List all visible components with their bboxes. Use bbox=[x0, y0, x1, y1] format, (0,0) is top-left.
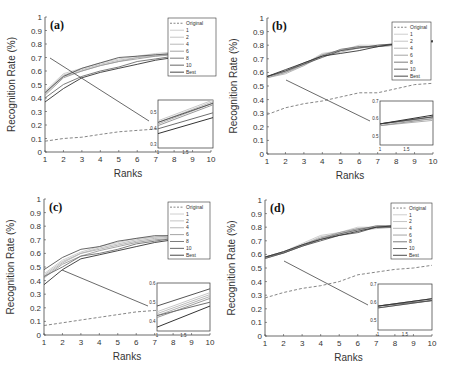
y-tick-label: 0.9 bbox=[251, 210, 263, 219]
zoom-connector-line bbox=[50, 58, 149, 121]
x-tick-label: 9 bbox=[412, 157, 417, 166]
zoom-inset: 0.30.40.511.5 bbox=[150, 100, 213, 155]
legend-entry: Original bbox=[410, 24, 427, 30]
y-tick-label: 1 bbox=[38, 13, 43, 22]
inset-y-tick: 0.3 bbox=[150, 142, 157, 147]
legend-entry: 1 bbox=[410, 31, 413, 37]
x-tick-label: 3 bbox=[302, 157, 307, 166]
y-axis-label: Recognition Rate (%) bbox=[5, 219, 16, 314]
y-axis-label: Recognition Rate (%) bbox=[226, 220, 237, 315]
x-tick-label: 4 bbox=[98, 155, 103, 164]
y-tick-label: 0.9 bbox=[253, 28, 265, 37]
x-tick-label: 6 bbox=[357, 157, 362, 166]
legend-entry: 6 bbox=[186, 231, 189, 237]
x-tick-label: 5 bbox=[337, 339, 342, 348]
y-tick-label: 1 bbox=[37, 195, 42, 204]
y-tick-label: 0.7 bbox=[253, 55, 265, 64]
legend-entry: 1 bbox=[409, 212, 412, 218]
panel-label: (c) bbox=[49, 200, 62, 214]
legend-entry: 6 bbox=[186, 48, 189, 54]
y-tick-label: 0.5 bbox=[31, 81, 43, 90]
y-tick-label: 0.7 bbox=[251, 237, 263, 246]
x-tick-label: 5 bbox=[116, 338, 121, 347]
inset-x-tick: 1 bbox=[157, 150, 160, 155]
inset-y-tick: 0.6 bbox=[149, 281, 156, 286]
x-tick-label: 4 bbox=[318, 339, 323, 348]
x-tick-label: 7 bbox=[375, 157, 380, 166]
zoom-connector-line bbox=[286, 80, 370, 121]
x-tick-label: 6 bbox=[134, 338, 139, 347]
x-tick-label: 1 bbox=[43, 155, 48, 164]
inset-y-tick: 0.5 bbox=[370, 318, 377, 323]
legend-entry: Best bbox=[410, 73, 421, 79]
y-tick-label: 0.7 bbox=[30, 236, 42, 245]
y-tick-label: 0.8 bbox=[253, 41, 265, 50]
zoom-connector-line bbox=[62, 270, 148, 306]
legend-entry: 8 bbox=[186, 238, 189, 244]
y-tick-label: 0.2 bbox=[30, 304, 42, 313]
inset-y-tick: 0.6 bbox=[372, 116, 379, 121]
y-tick-label: 0.8 bbox=[31, 40, 43, 49]
zoom-connector-line bbox=[284, 261, 368, 305]
legend-entry: 10 bbox=[186, 245, 192, 251]
x-tick-label: 7 bbox=[152, 338, 157, 347]
zoom-inset: 0.50.60.711.5 bbox=[372, 99, 433, 153]
x-tick-label: 8 bbox=[394, 157, 399, 166]
legend-entry: 8 bbox=[410, 59, 413, 65]
x-tick-label: 1 bbox=[265, 157, 270, 166]
legend-entry: 4 bbox=[186, 224, 189, 230]
y-tick-label: 1 bbox=[260, 14, 265, 23]
x-tick-label: 3 bbox=[79, 338, 84, 347]
legend-entry: 4 bbox=[186, 41, 189, 47]
inset-y-tick: 0.7 bbox=[372, 99, 379, 104]
zoom-inset: 0.50.60.711.5 bbox=[370, 282, 432, 338]
legend-entry: Original bbox=[186, 204, 203, 210]
legend-entry: 10 bbox=[410, 66, 416, 72]
y-tick-label: 0.6 bbox=[251, 250, 263, 259]
y-tick-label: 0 bbox=[38, 148, 43, 157]
legend-entry: 8 bbox=[409, 238, 412, 244]
x-tick-label: 8 bbox=[172, 155, 177, 164]
legend-entry: 2 bbox=[186, 218, 189, 224]
x-tick-label: 4 bbox=[320, 157, 325, 166]
y-tick-label: 0 bbox=[37, 331, 42, 340]
legend: Original1246810Best bbox=[168, 202, 210, 259]
x-tick-label: 5 bbox=[117, 155, 122, 164]
x-tick-label: 7 bbox=[374, 339, 379, 348]
x-tick-label: 6 bbox=[135, 155, 140, 164]
x-tick-label: 5 bbox=[339, 157, 344, 166]
legend-entry: 6 bbox=[410, 52, 413, 58]
zoom-inset: 0.40.50.611.5 bbox=[149, 281, 210, 339]
panel-label: (b) bbox=[272, 19, 287, 33]
x-tick-label: 10 bbox=[429, 157, 438, 166]
inset-x-tick: 1.5 bbox=[180, 333, 187, 338]
y-tick-label: 0 bbox=[258, 332, 263, 341]
inset-x-tick: 1 bbox=[156, 333, 159, 338]
legend-entry: 10 bbox=[409, 245, 415, 251]
y-tick-label: 0.6 bbox=[253, 68, 265, 77]
x-tick-label: 2 bbox=[60, 338, 65, 347]
legend-entry: 2 bbox=[409, 218, 412, 224]
y-tick-label: 0.2 bbox=[251, 305, 263, 314]
x-tick-label: 10 bbox=[207, 155, 216, 164]
legend-entry: Best bbox=[186, 69, 197, 75]
y-tick-label: 0.6 bbox=[31, 67, 43, 76]
inset-y-tick: 0.5 bbox=[372, 134, 379, 139]
y-tick-label: 1 bbox=[258, 196, 263, 205]
y-tick-label: 0.1 bbox=[253, 136, 265, 145]
inset-y-tick: 0.5 bbox=[149, 300, 156, 305]
chart-panel-b: 1234567891000.10.20.30.40.50.60.70.80.91… bbox=[228, 14, 438, 181]
y-tick-label: 0.7 bbox=[31, 54, 43, 63]
chart-panel-c: 1234567891000.10.20.30.40.50.60.70.80.91… bbox=[5, 195, 215, 362]
legend-entry: Original bbox=[409, 205, 426, 211]
inset-y-tick: 0.4 bbox=[149, 319, 156, 324]
y-tick-label: 0.4 bbox=[30, 277, 42, 286]
inset-x-tick: 1.5 bbox=[402, 332, 409, 337]
legend: Original1246810Best bbox=[168, 18, 216, 76]
chart-panel-d: 1234567891000.10.20.30.40.50.60.70.80.91… bbox=[226, 196, 437, 363]
inset-y-tick: 0.4 bbox=[150, 126, 157, 131]
x-axis-label: Ranks bbox=[114, 168, 142, 179]
x-axis-label: Ranks bbox=[334, 352, 362, 363]
y-tick-label: 0.3 bbox=[251, 291, 263, 300]
x-tick-label: 10 bbox=[428, 339, 437, 348]
